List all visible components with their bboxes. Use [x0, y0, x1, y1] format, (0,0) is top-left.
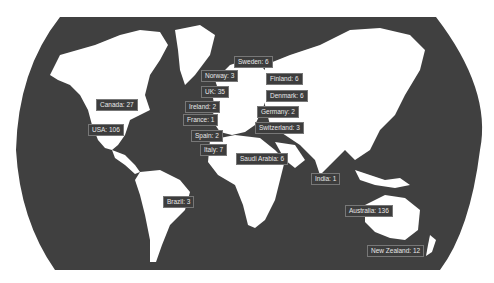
label-germany: Germany: 2: [257, 106, 299, 118]
label-new-zealand: New Zealand: 12: [367, 245, 424, 257]
label-india: India: 1: [311, 173, 340, 185]
label-ireland: Ireland: 2: [185, 101, 220, 113]
label-denmark: Denmark: 6: [266, 90, 308, 102]
label-switzerland: Switzerland: 3: [255, 122, 304, 134]
label-canada: Canada: 27: [96, 99, 138, 111]
label-usa: USA: 106: [88, 124, 124, 136]
label-saudi-arabia: Saudi Arabia: 6: [236, 153, 288, 165]
label-italy: Italy: 7: [200, 144, 227, 156]
label-sweden: Sweden: 6: [234, 56, 273, 68]
label-finland: Finland: 6: [266, 73, 303, 85]
label-uk: UK: 35: [201, 86, 229, 98]
label-australia: Australia: 136: [345, 205, 393, 217]
label-brazil: Brazil: 3: [163, 196, 194, 208]
label-spain: Spain: 2: [191, 130, 223, 142]
label-france: France: 1: [183, 114, 218, 126]
label-norway: Norway: 3: [201, 70, 238, 82]
world-map: [0, 0, 494, 283]
